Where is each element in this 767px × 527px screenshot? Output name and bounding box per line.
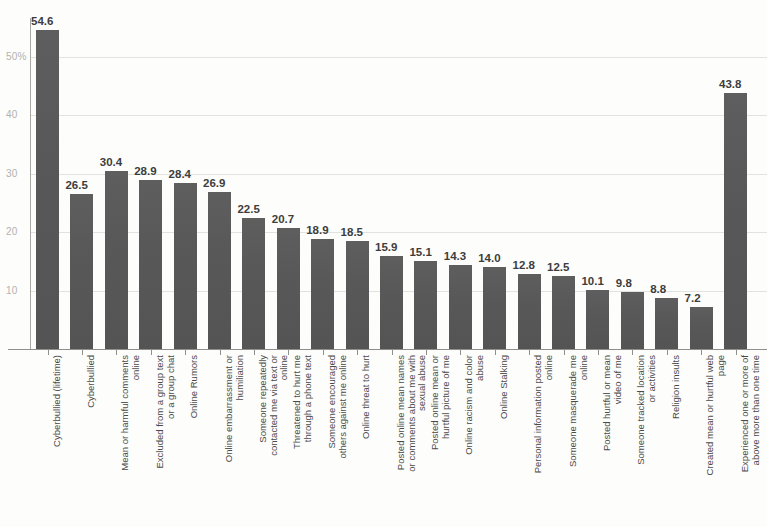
x-axis-label: Cyberbullied (lifetime): [52, 355, 63, 447]
bar-value-label: 22.5: [237, 203, 259, 215]
x-axis-label: Religion insults: [671, 355, 682, 419]
x-axis-label-line: others against me online: [337, 355, 348, 459]
bar: [690, 307, 713, 349]
bar-value-label: 7.2: [685, 292, 701, 304]
bar: [552, 276, 575, 349]
bar-value-label: 26.5: [65, 179, 87, 191]
bar-value-label: 8.8: [650, 283, 666, 295]
x-axis-label: Online threat to hurt: [361, 355, 372, 439]
bar: [311, 239, 334, 349]
x-axis-label-line: page: [716, 355, 727, 475]
x-axis-label-line: or a group chat: [165, 355, 176, 469]
bar: [483, 267, 506, 349]
x-axis-label-line: or activities: [647, 355, 658, 465]
bar: [277, 228, 300, 349]
x-axis-label-line: Excluded from a group text: [155, 355, 166, 469]
bar: [139, 180, 162, 349]
bar: [36, 30, 59, 349]
bar-value-label: 15.9: [375, 241, 397, 253]
x-axis-label-line: Cyberbullied: [86, 355, 97, 408]
x-axis-line: [8, 349, 767, 350]
x-axis-label-line: Cyberbullied (lifetime): [52, 355, 63, 447]
x-axis-label-line: abuse: [475, 355, 486, 455]
bars-layer: 54.626.530.428.928.426.922.520.718.918.5…: [0, 0, 767, 350]
x-axis-label: Someone tracked locationor activities: [636, 355, 657, 465]
bar: [105, 171, 128, 349]
x-axis-label-line: Posted online mean or: [430, 355, 441, 450]
bar-value-label: 14.0: [478, 252, 500, 264]
bar-value-label: 9.8: [616, 277, 632, 289]
x-axis-label-line: Someone masquerade me: [568, 355, 579, 467]
x-axis-label: Online embarrassment orhumiliation: [224, 355, 245, 462]
x-axis-label: Posted hurtful or meanvideo of me: [602, 355, 623, 451]
bar: [380, 256, 403, 349]
x-axis-label-line: Posted hurtful or mean: [602, 355, 613, 451]
bar-value-label: 28.4: [169, 168, 191, 180]
x-axis-label-line: Someone repeatedly: [258, 355, 269, 456]
x-axis-label: Posted online mean namesor comments abou…: [396, 355, 428, 472]
x-axis-label-line: online: [131, 355, 142, 471]
x-axis-label-line: Online threat to hurt: [361, 355, 372, 439]
x-axis-label: Online Rumors: [189, 355, 200, 418]
x-axis-label-line: Someone encouraged: [327, 355, 338, 459]
x-axis-label: Mean or harmful commentsonline: [120, 355, 141, 471]
x-axis-label: Online racism and colorabuse: [464, 355, 485, 455]
bar-value-label: 18.5: [341, 226, 363, 238]
bar: [242, 218, 265, 349]
x-axis-label-line: through a phone text: [303, 355, 314, 449]
x-axis-label-line: Online Rumors: [189, 355, 200, 418]
x-axis-label: Threatened to hurt methrough a phone tex…: [292, 355, 313, 449]
bar: [208, 192, 231, 349]
x-axis-label-line: Religion insults: [671, 355, 682, 419]
x-axis-label: Personal information postedonline: [533, 355, 554, 473]
bar-value-label: 12.5: [547, 261, 569, 273]
x-axis-label: Excluded from a group textor a group cha…: [155, 355, 176, 469]
x-axis-label-line: online: [544, 355, 555, 473]
plot-area: 50%40302010 54.626.530.428.928.426.922.5…: [0, 0, 767, 350]
bar-chart: 50%40302010 54.626.530.428.928.426.922.5…: [0, 0, 767, 527]
x-axis-label-line: Experienced one or more of: [740, 355, 751, 472]
bar-value-label: 28.9: [134, 165, 156, 177]
bar-value-label: 43.8: [719, 78, 741, 90]
bar-value-label: 18.9: [306, 224, 328, 236]
bar: [70, 194, 93, 349]
x-axis-label-line: or comments about me with: [406, 355, 417, 472]
x-axis-label: Someone masquerade meonline: [568, 355, 589, 467]
x-axis-label-line: Online Stalking: [499, 355, 510, 419]
x-axis-label-line: hurtful picture of me: [440, 355, 451, 450]
x-axis-label-line: Posted online mean names: [396, 355, 407, 472]
x-axis-label-line: sexual abuse: [417, 355, 428, 472]
bar-value-label: 54.6: [31, 15, 53, 27]
bar-value-label: 14.3: [444, 250, 466, 262]
bar: [449, 265, 472, 349]
bar: [724, 93, 747, 349]
bar: [174, 183, 197, 349]
x-axis-label: Someone encouragedothers against me onli…: [327, 355, 348, 459]
x-axis-label-line: Online embarrassment or: [224, 355, 235, 462]
bar: [518, 274, 541, 349]
x-axis-label: Someone repeatedlycontacted me via text …: [258, 355, 290, 456]
x-axis-label: Posted online mean orhurtful picture of …: [430, 355, 451, 450]
x-axis-label: Online Stalking: [499, 355, 510, 419]
x-axis-label-line: humiliation: [234, 355, 245, 462]
bar: [621, 292, 644, 349]
bar: [346, 241, 369, 349]
x-axis-label-line: video of me: [612, 355, 623, 451]
x-axis-label-line: online: [279, 355, 290, 456]
x-axis-label: Cyberbullied: [86, 355, 97, 408]
bar-value-label: 26.9: [203, 177, 225, 189]
bar-value-label: 12.8: [513, 259, 535, 271]
bar-value-label: 10.1: [581, 275, 603, 287]
x-axis-label-line: above more than one time: [750, 355, 761, 472]
bar-value-label: 20.7: [272, 213, 294, 225]
bar-value-label: 15.1: [409, 246, 431, 258]
x-axis-category-labels: Cyberbullied (lifetime)CyberbulliedMean …: [0, 355, 767, 527]
x-axis-label: Created mean or hurtful webpage: [705, 355, 726, 475]
bar: [586, 290, 609, 349]
x-axis-label: Experienced one or more ofabove more tha…: [740, 355, 761, 472]
bar-value-label: 30.4: [100, 156, 122, 168]
bar: [655, 298, 678, 349]
x-axis-label-line: online: [578, 355, 589, 467]
bar: [414, 261, 437, 349]
